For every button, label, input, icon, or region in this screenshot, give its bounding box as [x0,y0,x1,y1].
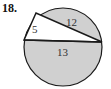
label-short-leg: 5 [32,23,38,35]
label-hypotenuse: 13 [57,46,69,58]
circle-triangle-diagram: 5 12 13 [0,0,111,89]
label-long-leg: 12 [66,16,77,28]
